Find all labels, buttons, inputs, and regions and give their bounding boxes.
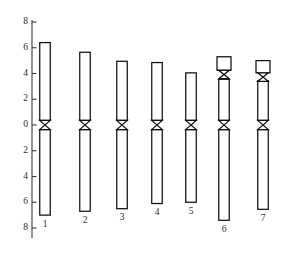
short-arm-p (258, 81, 269, 121)
chromosome-number-label: 2 (83, 215, 88, 225)
long-arm-q (40, 130, 51, 216)
long-arm-q (80, 130, 91, 212)
satellite (256, 61, 270, 73)
axis-tick-label: 8 (23, 16, 28, 26)
chromosome-4 (152, 63, 163, 204)
secondary-constriction (258, 73, 269, 81)
long-arm-q (258, 130, 269, 210)
axis-tick-label: 2 (23, 145, 28, 155)
centromere (219, 120, 230, 129)
chromosome-number-label: 7 (261, 213, 266, 223)
long-arm-q (117, 130, 128, 209)
chromosome-number-label: 3 (120, 212, 125, 222)
satellite (217, 57, 231, 71)
axis-tick-label: 6 (23, 196, 28, 206)
chromosome-number-label: 6 (222, 224, 227, 234)
short-arm-p (219, 79, 230, 120)
short-arm-p (117, 61, 128, 120)
long-arm-q (186, 130, 197, 203)
idiogram-canvas: 864202468 1234567 (0, 0, 295, 255)
secondary-constriction (219, 70, 230, 78)
centromere (186, 120, 197, 129)
long-arm-q (152, 130, 163, 204)
idiogram-figure: 864202468 1234567 (0, 0, 295, 255)
chromosome-group (40, 43, 270, 221)
chromosome-5 (186, 73, 197, 202)
chromosome-number-label: 5 (189, 206, 194, 216)
centromere (117, 120, 128, 129)
centromere (40, 120, 51, 129)
chromosome-6 (217, 57, 231, 221)
axis-group: 864202468 (23, 16, 36, 238)
short-arm-p (40, 43, 51, 121)
short-arm-p (152, 63, 163, 121)
axis-tick-label: 6 (23, 42, 28, 52)
chromosome-2 (80, 52, 91, 211)
chromosome-3 (117, 61, 128, 208)
centromere (80, 120, 91, 129)
chromosome-7 (256, 61, 270, 210)
long-arm-q (219, 130, 230, 221)
axis-tick-label: 2 (23, 93, 28, 103)
short-arm-p (186, 73, 197, 121)
chromosome-1 (40, 43, 51, 216)
centromere (258, 120, 269, 129)
axis-tick-label: 4 (23, 68, 28, 78)
centromere (152, 120, 163, 129)
axis-tick-label: 8 (23, 222, 28, 232)
short-arm-p (80, 52, 91, 120)
chromosome-label-group: 1234567 (43, 206, 266, 234)
chromosome-number-label: 4 (155, 207, 160, 217)
axis-tick-label: 4 (23, 171, 28, 181)
axis-tick-label: 0 (23, 119, 28, 129)
chromosome-number-label: 1 (43, 219, 48, 229)
